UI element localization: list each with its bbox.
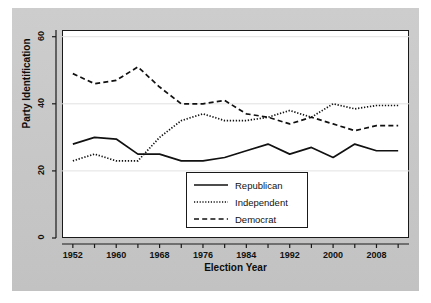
- series-line-democrat: [73, 67, 398, 131]
- x-tick-label-1976: 1976: [190, 250, 216, 260]
- y-tick-label-0: 0: [36, 226, 46, 248]
- y-axis-title: Party Identification: [21, 24, 32, 144]
- legend-label-democrat: Democrat: [235, 214, 276, 225]
- x-tick-label-1952: 1952: [60, 250, 86, 260]
- y-tick-label-60: 60: [36, 25, 46, 47]
- x-tick-label-1960: 1960: [103, 250, 129, 260]
- legend-label-republican: Republican: [235, 180, 283, 191]
- x-tick-label-2000: 2000: [320, 250, 346, 260]
- legend-label-independent: Independent: [235, 197, 288, 208]
- series-line-independent: [73, 104, 398, 161]
- legend-line-sample-dotted: [193, 197, 229, 207]
- legend-entry-2: Democrat: [193, 211, 276, 227]
- legend-entry-0: Republican: [193, 177, 283, 193]
- x-tick-label-2008: 2008: [363, 250, 389, 260]
- x-tick-label-1992: 1992: [277, 250, 303, 260]
- series-line-republican: [73, 137, 398, 160]
- y-tick-label-40: 40: [36, 92, 46, 114]
- x-tick-label-1968: 1968: [147, 250, 173, 260]
- legend-entry-1: Independent: [193, 194, 288, 210]
- legend-line-sample-dashed: [193, 214, 229, 224]
- x-axis-title: Election Year: [62, 262, 409, 273]
- chart-legend: Republican Independent Democrat: [186, 172, 308, 228]
- x-tick-label-1984: 1984: [233, 250, 259, 260]
- chart-figure: Party Identification 0204060 19521960196…: [0, 0, 431, 303]
- legend-line-sample-solid: [193, 180, 229, 190]
- y-tick-label-20: 20: [36, 159, 46, 181]
